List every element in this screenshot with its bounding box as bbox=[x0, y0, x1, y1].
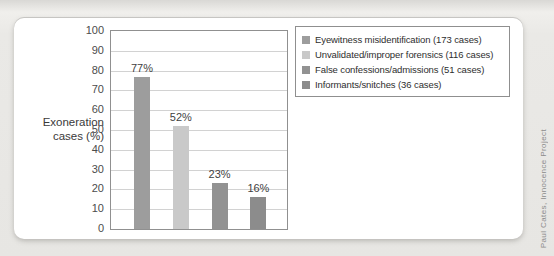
legend-item: False confessions/admissions (51 cases) bbox=[302, 62, 503, 77]
y-tick-label: 90 bbox=[92, 44, 104, 56]
bar bbox=[134, 77, 150, 229]
y-tick-label: 40 bbox=[92, 143, 104, 155]
legend-item: Unvalidated/improper forensics (116 case… bbox=[302, 47, 503, 62]
bar-value-label: 23% bbox=[202, 168, 238, 180]
y-tick-label: 10 bbox=[92, 202, 104, 214]
y-tick-label: 60 bbox=[92, 103, 104, 115]
legend-swatch-icon bbox=[302, 81, 310, 89]
y-axis-ticks: 1009080706050403020100 bbox=[70, 30, 104, 228]
y-tick-label: 70 bbox=[92, 83, 104, 95]
y-tick-label: 50 bbox=[92, 123, 104, 135]
legend-item-label: False confessions/admissions (51 cases) bbox=[315, 64, 484, 75]
y-tick-label: 20 bbox=[92, 182, 104, 194]
legend-item: Informants/snitches (36 cases) bbox=[302, 77, 503, 92]
y-tick-label: 30 bbox=[92, 163, 104, 175]
bar-value-label: 16% bbox=[240, 182, 276, 194]
legend-swatch-icon bbox=[302, 51, 310, 59]
bar bbox=[173, 126, 189, 229]
legend-item: Eyewitness misidentification (173 cases) bbox=[302, 32, 503, 47]
bar bbox=[250, 197, 266, 229]
bar-value-label: 52% bbox=[163, 111, 199, 123]
chart-card: Exoneration cases (%) 100908070605040302… bbox=[14, 18, 523, 239]
y-tick-label: 100 bbox=[86, 24, 104, 36]
bar-group: 16% bbox=[240, 31, 276, 229]
legend-swatch-icon bbox=[302, 36, 310, 44]
y-tick-label: 0 bbox=[98, 222, 104, 234]
legend: Eyewitness misidentification (173 cases)… bbox=[295, 26, 510, 97]
legend-swatch-icon bbox=[302, 66, 310, 74]
bar bbox=[212, 183, 228, 229]
credit-text: Paul Cates, Innocence Project bbox=[539, 129, 548, 248]
legend-item-label: Informants/snitches (36 cases) bbox=[315, 79, 441, 90]
legend-item-label: Eyewitness misidentification (173 cases) bbox=[315, 34, 482, 45]
legend-item-label: Unvalidated/improper forensics (116 case… bbox=[315, 49, 493, 60]
plot-area: 77%52%23%16% bbox=[110, 30, 288, 230]
bar-group: 52% bbox=[163, 31, 199, 229]
y-tick-label: 80 bbox=[92, 64, 104, 76]
bar-group: 23% bbox=[202, 31, 238, 229]
bar-group: 77% bbox=[124, 31, 160, 229]
bar-value-label: 77% bbox=[124, 62, 160, 74]
